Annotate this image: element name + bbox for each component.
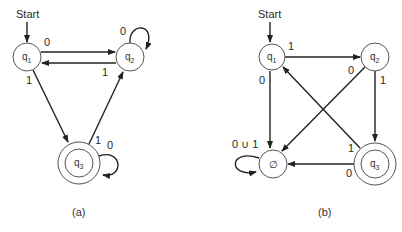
state-b-empty: ∅	[259, 150, 287, 178]
edge-label-b-q2-empty: 0	[348, 64, 354, 76]
caption-a: (a)	[72, 206, 85, 218]
edge-label-b-q1-q2: 1	[288, 40, 294, 52]
state-a-q1: q1	[13, 43, 41, 71]
start-label-b: Start	[258, 8, 281, 20]
edge-label-a-q2-loop: 0	[120, 25, 126, 37]
diagram-b: Start 1 0 0 1 1 0 0 ∪ 1 q1 q2	[232, 8, 396, 218]
state-b-q3-accepting: q3	[354, 143, 396, 185]
start-label-a: Start	[16, 8, 39, 20]
diagram-a: Start 0 1 0 1 1 0 q1 q2 q3	[13, 8, 149, 218]
state-b-q1: q1	[259, 44, 285, 70]
state-a-q2: q2	[116, 43, 144, 71]
state-a-q3-accepting: q3	[58, 142, 100, 184]
edge-label-a-q1-q2: 0	[44, 36, 50, 48]
edge-label-a-q3-loop: 0	[107, 139, 113, 151]
automata-figure: Start 0 1 0 1 1 0 q1 q2 q3	[0, 0, 402, 232]
edge-label-b-empty-loop: 0 ∪ 1	[232, 138, 258, 150]
edge-label-a-q3-q2: 1	[95, 134, 101, 146]
edge-label-b-q2-q3: 1	[380, 74, 386, 86]
caption-b: (b)	[318, 206, 331, 218]
edge-b-q3-q1	[283, 67, 360, 148]
edge-label-b-q1-empty: 0	[259, 74, 265, 86]
edge-a-q1-q3	[33, 70, 68, 142]
edge-label-a-q1-q3: 1	[26, 74, 32, 86]
edge-a-q3-loop	[99, 155, 118, 176]
svg-text:∅: ∅	[269, 159, 278, 170]
edge-label-b-q3-q1: 1	[348, 142, 354, 154]
edge-b-empty-loop	[235, 156, 259, 173]
state-b-q2: q2	[361, 43, 389, 71]
edge-label-b-q3-empty: 0	[346, 167, 352, 179]
edge-label-a-q2-q1: 1	[102, 66, 108, 78]
